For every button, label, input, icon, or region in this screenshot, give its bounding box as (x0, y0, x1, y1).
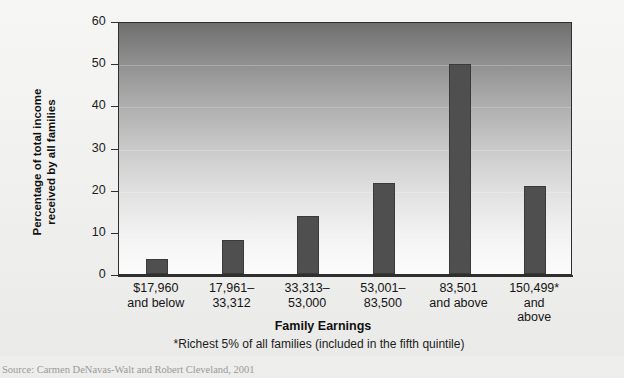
y-axis-tick (111, 191, 118, 192)
y-axis-tick-label: 0 (78, 267, 106, 281)
y-axis-tick-label: 10 (78, 225, 106, 239)
y-axis-tick (111, 64, 118, 65)
x-axis-tick-label: 150,499* and above (486, 281, 582, 325)
y-axis-title: Percentage of total income received by a… (30, 87, 58, 237)
y-axis-tick-label: 40 (78, 98, 106, 112)
y-axis-line (118, 22, 119, 276)
gridline (119, 65, 571, 66)
bar (222, 240, 244, 274)
y-axis-tick (111, 149, 118, 150)
gridline (119, 107, 571, 108)
y-axis-tick-label: 50 (78, 56, 106, 70)
y-axis-tick (111, 106, 118, 107)
plot-area (118, 22, 572, 275)
y-axis-tick-label: 60 (78, 14, 106, 28)
bar (297, 216, 319, 274)
gridline (119, 192, 571, 193)
gridline (119, 234, 571, 235)
x-axis-line (118, 275, 573, 277)
bar (449, 64, 471, 274)
y-axis-tick-label: 20 (78, 183, 106, 197)
bar (373, 183, 395, 274)
x-axis-title: Family Earnings (0, 319, 624, 333)
y-axis-tick (111, 275, 118, 276)
y-axis-tick (111, 22, 118, 23)
bar (524, 186, 546, 274)
bar (146, 259, 168, 274)
y-axis-tick (111, 233, 118, 234)
figure-container: 0102030405060 Percentage of total income… (0, 0, 624, 378)
gridline (119, 150, 571, 151)
source-line: Source: Carmen DeNavas-Walt and Robert C… (2, 364, 622, 375)
y-axis-tick-label: 30 (78, 141, 106, 155)
footnote: *Richest 5% of all families (included in… (0, 337, 624, 351)
